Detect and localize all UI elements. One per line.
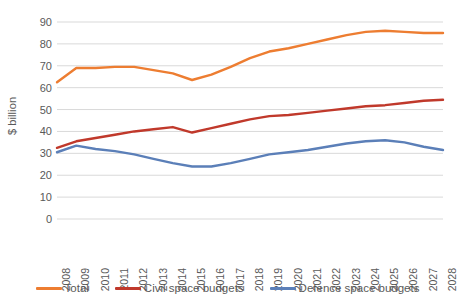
x-axis-tick-labels: 2008200920102011201220132014201520162017… <box>57 220 443 272</box>
legend-swatch-icon <box>270 287 296 290</box>
plot-area <box>57 22 443 219</box>
y-axis-tick: 80 <box>40 38 52 49</box>
legend-swatch-icon <box>115 287 141 290</box>
series-lines <box>57 31 443 167</box>
legend-item[interactable]: Civil space budgets <box>115 282 244 294</box>
legend-item[interactable]: Total <box>36 282 89 294</box>
y-axis-tick: 70 <box>40 60 52 71</box>
y-axis-tick-labels: 9080706050403020100 <box>24 0 56 232</box>
legend-item[interactable]: Defence space budgets <box>270 282 420 294</box>
y-axis-title: $ billion <box>0 0 24 232</box>
y-axis-tick: 10 <box>40 192 52 203</box>
y-axis-tick: 90 <box>40 17 52 28</box>
series-line <box>57 31 443 82</box>
y-axis-tick: 20 <box>40 170 52 181</box>
legend-label: Defence space budgets <box>299 282 420 294</box>
y-axis-tick: 0 <box>46 214 52 225</box>
plot-svg <box>57 22 443 219</box>
y-axis-tick: 40 <box>40 126 52 137</box>
y-axis-title-label: $ billion <box>6 97 18 135</box>
legend-swatch-icon <box>36 287 62 290</box>
y-axis-tick: 60 <box>40 82 52 93</box>
y-axis-tick: 30 <box>40 148 52 159</box>
chart-legend: TotalCivil space budgetsDefence space bu… <box>0 278 455 298</box>
y-axis-tick: 50 <box>40 104 52 115</box>
legend-label: Total <box>65 282 89 294</box>
legend-label: Civil space budgets <box>144 282 244 294</box>
